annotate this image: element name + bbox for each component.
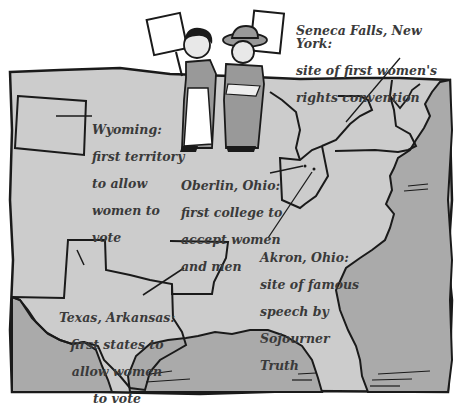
left-placard: [147, 13, 188, 55]
akron-label: Akron, Ohio: site of famous speech by So…: [260, 237, 359, 386]
seneca-falls-label: Seneca Falls, New York: site of first wo…: [296, 10, 456, 118]
texas-arkansas-label: Texas, Arkansas: first states to allow w…: [56, 297, 178, 407]
wyoming-label: Wyoming: first territory to allow women …: [92, 109, 184, 271]
